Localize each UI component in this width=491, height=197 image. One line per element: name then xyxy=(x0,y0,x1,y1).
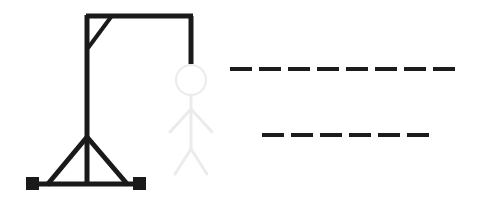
canvas-background xyxy=(0,0,491,197)
letter-blank[interactable] xyxy=(288,67,310,71)
letter-blank[interactable] xyxy=(291,133,313,137)
letter-blank[interactable] xyxy=(317,67,339,71)
letter-blank[interactable] xyxy=(259,67,281,71)
letter-blank[interactable] xyxy=(375,67,397,71)
gallows-foot-left xyxy=(26,177,39,190)
hangman-game: Hangman xyxy=(0,0,491,197)
letter-blank[interactable] xyxy=(433,67,455,71)
letter-blank[interactable] xyxy=(346,67,368,71)
hangman-canvas xyxy=(0,0,491,197)
letter-blank[interactable] xyxy=(349,133,371,137)
letter-blank[interactable] xyxy=(262,133,284,137)
letter-blank[interactable] xyxy=(407,133,429,137)
letter-blank[interactable] xyxy=(230,67,252,71)
letter-blank[interactable] xyxy=(378,133,400,137)
gallows-foot-right xyxy=(133,177,146,190)
letter-blank[interactable] xyxy=(404,67,426,71)
letter-blank[interactable] xyxy=(320,133,342,137)
